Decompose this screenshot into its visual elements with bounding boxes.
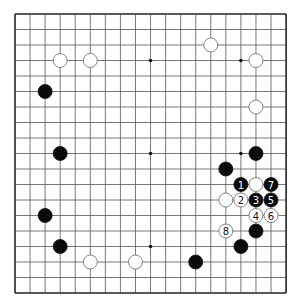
white-stone-icon bbox=[219, 193, 233, 207]
black-stone bbox=[38, 209, 52, 223]
white-stone bbox=[83, 255, 97, 269]
move-number-label: 1 bbox=[238, 180, 244, 191]
black-stone bbox=[234, 240, 248, 254]
white-stone-icon bbox=[83, 255, 97, 269]
black-stone-icon bbox=[219, 162, 233, 176]
move-4: 4 bbox=[249, 209, 263, 223]
black-stone bbox=[249, 224, 263, 238]
black-stone bbox=[53, 240, 67, 254]
move-8: 8 bbox=[219, 224, 233, 238]
black-stone bbox=[219, 162, 233, 176]
go-board: 12345678 bbox=[0, 0, 300, 307]
move-5: 5 bbox=[264, 193, 278, 207]
move-number-label: 5 bbox=[268, 195, 274, 206]
move-7: 7 bbox=[264, 178, 278, 192]
white-stone-icon bbox=[249, 178, 263, 192]
move-2: 2 bbox=[234, 193, 248, 207]
move-number-label: 4 bbox=[253, 211, 259, 222]
move-number-label: 2 bbox=[238, 195, 244, 206]
black-stone-icon bbox=[53, 147, 67, 161]
move-number-label: 7 bbox=[268, 180, 274, 191]
move-3: 3 bbox=[249, 193, 263, 207]
black-stone-icon bbox=[249, 147, 263, 161]
black-stone-icon bbox=[234, 240, 248, 254]
white-stone bbox=[249, 54, 263, 68]
numbered-moves-layer: 12345678 bbox=[219, 178, 278, 239]
move-number-label: 8 bbox=[223, 226, 229, 237]
black-stone-icon bbox=[249, 224, 263, 238]
white-stone-icon bbox=[128, 255, 142, 269]
move-6: 6 bbox=[264, 209, 278, 223]
move-number-label: 3 bbox=[253, 195, 259, 206]
white-stone bbox=[249, 178, 263, 192]
move-number-label: 6 bbox=[268, 211, 274, 222]
white-stone-icon bbox=[249, 54, 263, 68]
white-stone bbox=[83, 54, 97, 68]
white-stone-icon bbox=[204, 38, 218, 52]
white-stone bbox=[249, 100, 263, 114]
black-stone bbox=[38, 85, 52, 99]
star-point bbox=[239, 59, 243, 63]
white-stone bbox=[128, 255, 142, 269]
white-stone bbox=[53, 54, 67, 68]
black-stone bbox=[189, 255, 203, 269]
star-point bbox=[149, 245, 153, 249]
black-stone bbox=[249, 147, 263, 161]
white-stone bbox=[219, 193, 233, 207]
black-stone-icon bbox=[38, 209, 52, 223]
black-stone-icon bbox=[189, 255, 203, 269]
white-stone-icon bbox=[83, 54, 97, 68]
star-point bbox=[239, 152, 243, 156]
star-point bbox=[149, 152, 153, 156]
black-stone-icon bbox=[53, 240, 67, 254]
white-stone bbox=[204, 38, 218, 52]
white-stone-icon bbox=[249, 100, 263, 114]
move-1: 1 bbox=[234, 178, 248, 192]
white-stone-icon bbox=[53, 54, 67, 68]
star-point bbox=[149, 59, 153, 63]
black-stone bbox=[53, 147, 67, 161]
black-stone-icon bbox=[38, 85, 52, 99]
